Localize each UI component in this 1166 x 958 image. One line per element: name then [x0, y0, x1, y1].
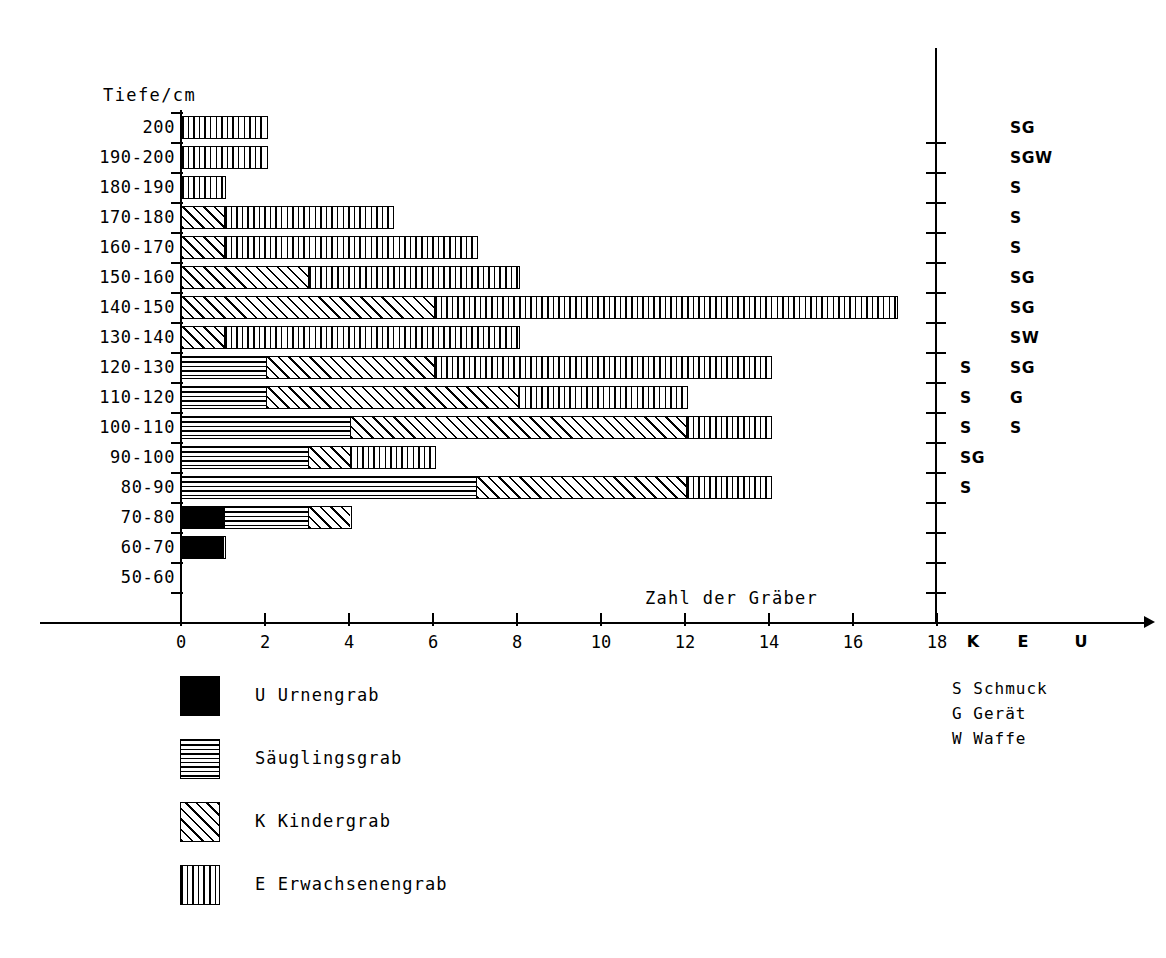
- y-axis-tick-label: 190-200: [60, 147, 175, 167]
- legend-label: K Kindergrab: [255, 811, 391, 831]
- bar-row: [181, 353, 937, 383]
- x-axis-tick: [348, 613, 350, 626]
- grave-goods-label-e: SG: [1010, 269, 1035, 287]
- bar-row: [181, 263, 937, 293]
- stacked-bar: [181, 116, 268, 139]
- bar-segment-k: [266, 357, 434, 378]
- bar-segment-k: [182, 237, 224, 258]
- grave-goods-label-k: S: [960, 359, 972, 377]
- column-header-u: U: [1066, 632, 1096, 651]
- grave-goods-label-e: SG: [1010, 359, 1035, 377]
- grave-goods-axis-tick: [926, 472, 946, 474]
- legend-label: U Urnengrab: [255, 685, 380, 705]
- x-axis-tick: [264, 613, 266, 626]
- bar-segment-e: [518, 387, 686, 408]
- x-axis-arrow-icon: [1144, 616, 1155, 628]
- x-axis-tick: [180, 613, 182, 626]
- bar-segment-k: [350, 417, 686, 438]
- bar-segment-e: [434, 357, 770, 378]
- chart-figure: Tiefe/cm 200190-200180-190170-180160-170…: [0, 0, 1166, 958]
- grave-goods-label-e: S: [1010, 239, 1022, 257]
- grave-goods-axis-tick: [926, 592, 946, 594]
- column-header-k: K: [958, 632, 988, 651]
- stacked-bar: [181, 176, 226, 199]
- bar-row: [181, 503, 937, 533]
- grave-goods-axis-tick: [926, 292, 946, 294]
- x-axis-title: Zahl der Gräber: [645, 588, 818, 608]
- grave-goods-label-e: SG: [1010, 119, 1035, 137]
- x-axis-line: [40, 622, 1150, 624]
- bar-segment-u: [182, 507, 224, 528]
- bar-row: [181, 443, 937, 473]
- bar-segment-e: [350, 447, 434, 468]
- x-axis-tick-label: 2: [245, 632, 285, 652]
- grave-goods-axis-tick: [926, 142, 946, 144]
- bar-row: [181, 473, 937, 503]
- stacked-bar: [181, 506, 352, 529]
- grave-goods-label-e: G: [1010, 389, 1023, 407]
- column-header-e: E: [1008, 632, 1038, 651]
- x-axis-tick-label: 6: [413, 632, 453, 652]
- bar-row: [181, 203, 937, 233]
- x-axis-tick: [516, 613, 518, 626]
- y-axis-tick-label: 100-110: [60, 417, 175, 437]
- grave-goods-label-e: SG: [1010, 299, 1035, 317]
- stacked-bar: [181, 446, 436, 469]
- grave-goods-axis-tick: [926, 412, 946, 414]
- bar-segment-s: [182, 447, 308, 468]
- x-axis-tick-label: 0: [161, 632, 201, 652]
- stacked-bar: [181, 206, 394, 229]
- bar-segment-k: [182, 297, 434, 318]
- y-axis-title: Tiefe/cm: [103, 85, 196, 105]
- x-axis-tick-label: 4: [329, 632, 369, 652]
- grave-goods-axis-tick: [926, 322, 946, 324]
- grave-goods-axis-tick: [926, 172, 946, 174]
- grave-goods-label-k: S: [960, 389, 972, 407]
- stacked-bar: [181, 536, 226, 559]
- bar-segment-k: [476, 477, 686, 498]
- x-axis-tick-label: 8: [497, 632, 537, 652]
- y-axis-tick-label: 80-90: [60, 477, 175, 497]
- bar-segment-e: [182, 117, 266, 138]
- bar-row: [181, 323, 937, 353]
- grave-goods-axis-tick: [926, 562, 946, 564]
- legend-label: Säuglingsgrab: [255, 748, 402, 768]
- y-axis-tick-label: 150-160: [60, 267, 175, 287]
- stacked-bar: [181, 146, 268, 169]
- grave-goods-axis-tick: [926, 532, 946, 534]
- x-axis-tick-label: 16: [833, 632, 873, 652]
- y-axis-tick-label: 110-120: [60, 387, 175, 407]
- legend-swatch-diagonal-hatch: [180, 802, 220, 842]
- stacked-bar: [181, 326, 520, 349]
- y-axis-tick-label: 50-60: [60, 567, 175, 587]
- bar-segment-k: [308, 447, 350, 468]
- bar-row: [181, 293, 937, 323]
- x-axis-tick-label: 18: [917, 632, 957, 652]
- x-axis-tick: [852, 613, 854, 626]
- x-axis-tick: [600, 613, 602, 626]
- y-axis-tick-label: 130-140: [60, 327, 175, 347]
- x-axis-tick: [768, 613, 770, 626]
- bar-segment-k: [308, 507, 350, 528]
- grave-goods-axis-tick: [926, 352, 946, 354]
- bar-segment-e: [182, 147, 266, 168]
- bar-row: [181, 113, 937, 143]
- bar-segment-u: [182, 537, 224, 558]
- goods-key-entry: S Schmuck: [952, 676, 1048, 701]
- bar-segment-e: [434, 297, 896, 318]
- bar-row: [181, 533, 937, 563]
- grave-goods-label-k: S: [960, 419, 972, 437]
- bar-segment-k: [182, 327, 224, 348]
- y-axis-tick-label: 160-170: [60, 237, 175, 257]
- grave-goods-axis-tick: [926, 232, 946, 234]
- y-axis-tick-label: 200: [60, 117, 175, 137]
- y-axis-tick-label: 170-180: [60, 207, 175, 227]
- plot-area: [181, 113, 937, 623]
- bar-segment-e: [224, 207, 392, 228]
- grave-goods-label-k: S: [960, 479, 972, 497]
- y-axis-tick-label: 70-80: [60, 507, 175, 527]
- bar-segment-e: [182, 177, 224, 198]
- bar-row: [181, 383, 937, 413]
- stacked-bar: [181, 356, 772, 379]
- grave-goods-label-e: S: [1010, 179, 1022, 197]
